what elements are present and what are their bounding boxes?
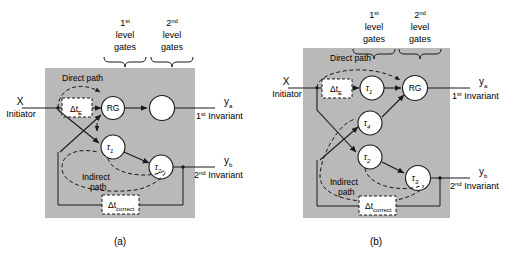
gate1-line3: gates bbox=[114, 42, 137, 52]
b-yb-invariant: Invariant bbox=[464, 181, 499, 191]
panel-a-caption: (a) bbox=[114, 236, 126, 247]
b-ya-invariant: Invariant bbox=[464, 91, 499, 101]
gate2-brace bbox=[151, 57, 193, 67]
gate2-line2: level bbox=[163, 30, 182, 40]
panel-a-input-junction bbox=[56, 106, 59, 109]
panel-a: 1st level gates 2nd level gates Direct p… bbox=[6, 18, 243, 247]
panel-b-node-tau-4: τ4 bbox=[358, 111, 382, 135]
panel-b-delta-t-e-block: ΔtE bbox=[322, 79, 352, 98]
b-gate1-sup: st bbox=[374, 10, 379, 16]
panel-b: 1st level gates 2nd level gates Direct p… bbox=[272, 10, 499, 247]
b-gate2-line3: gates bbox=[409, 34, 432, 44]
gate1-line2: level bbox=[116, 30, 135, 40]
panel-b-delta-t-correct-block: Δtcorrect bbox=[359, 196, 396, 215]
panel-b-tau1-sub: 1 bbox=[369, 89, 372, 95]
b-dtc-sub: correct bbox=[373, 207, 392, 213]
panel-a-rg-label: RG bbox=[107, 103, 120, 113]
b-dte-sub: E bbox=[338, 90, 342, 96]
b-gate2-line2: level bbox=[411, 22, 430, 32]
panel-b-output-b-label: 2nd Invariant bbox=[450, 181, 499, 191]
panel-a-tau1-sub: 1 bbox=[110, 148, 113, 154]
b-gate1-line2: level bbox=[365, 22, 384, 32]
b-yb-sub: b bbox=[484, 173, 488, 179]
panel-b-indirect-label-2: path bbox=[338, 187, 355, 197]
ya-invariant: Invariant bbox=[208, 111, 243, 121]
panel-a-indirect-label-2: path bbox=[90, 182, 107, 192]
svg-text:2nd: 2nd bbox=[166, 18, 178, 28]
panel-a-node-empty bbox=[150, 96, 175, 121]
svg-text:1st: 1st bbox=[369, 10, 379, 20]
panel-b-node-tau-1: τ1 bbox=[360, 76, 384, 100]
panel-a-gate-group-2: 2nd level gates bbox=[151, 18, 193, 67]
gate1-brace bbox=[104, 57, 146, 67]
gate2-line3: gates bbox=[161, 42, 184, 52]
dte-sub: E bbox=[78, 110, 82, 116]
panel-b-node-rg: RG bbox=[403, 76, 428, 101]
svg-text:2nd: 2nd bbox=[414, 10, 426, 20]
panel-b-tau2-sub: 2 bbox=[366, 158, 371, 164]
panel-b-output-a-label: 1st Invariant bbox=[452, 91, 499, 101]
panel-b-input-symbol: X bbox=[283, 76, 290, 87]
b-ya-sub: a bbox=[484, 83, 488, 89]
ya-sub: a bbox=[229, 103, 233, 109]
panel-b-rg-label: RG bbox=[409, 83, 422, 93]
panel-b-input-junction bbox=[315, 86, 318, 89]
panel-a-gate-group-1: 1st level gates bbox=[104, 18, 146, 67]
panel-a-direct-path-label: Direct path bbox=[62, 73, 103, 83]
panel-a-node-tau-1: τ1 bbox=[101, 135, 125, 159]
yb-invariant: Invariant bbox=[208, 170, 243, 180]
panel-a-delta-t-e-block: ΔtE bbox=[62, 98, 92, 117]
b-gate1-line3: gates bbox=[363, 34, 386, 44]
panel-a-node-tau-2: τ2 bbox=[149, 155, 173, 179]
panel-b-indirect-label-1: Indirect bbox=[330, 177, 359, 187]
panel-b-caption: (b) bbox=[370, 236, 382, 247]
panel-b-node-tau-2: τ2 bbox=[358, 145, 382, 169]
gate2-sup: nd bbox=[171, 18, 178, 24]
panel-a-node-rg: RG bbox=[102, 97, 125, 120]
panel-b-direct-path-label: Direct path bbox=[330, 53, 371, 63]
panel-b-output-a-symbol: ya bbox=[479, 76, 488, 89]
yb-sup: nd bbox=[199, 170, 206, 176]
panel-a-output-b-label: 2nd Invariant bbox=[194, 170, 243, 180]
panel-a-input-label: Initiator bbox=[6, 109, 36, 119]
diagram-canvas: 1st level gates 2nd level gates Direct p… bbox=[0, 0, 516, 260]
panel-a-indirect-label-1: Indirect bbox=[82, 172, 111, 182]
figure-root: 1st level gates 2nd level gates Direct p… bbox=[0, 0, 516, 260]
panel-b-input-label: Initiator bbox=[272, 89, 302, 99]
yb-sub: b bbox=[229, 162, 233, 168]
panel-a-delta-t-correct-block: Δtcorrect bbox=[102, 195, 139, 214]
panel-a-output-b-symbol: yb bbox=[224, 155, 233, 168]
svg-text:1st: 1st bbox=[120, 18, 130, 28]
b-yb-sup: nd bbox=[455, 181, 462, 187]
panel-a-output-a-label: 1st Invariant bbox=[196, 111, 243, 121]
panel-a-input-symbol: X bbox=[17, 96, 24, 107]
panel-b-output-b-symbol: yb bbox=[479, 166, 488, 179]
panel-a-output-a-symbol: ya bbox=[224, 96, 233, 109]
dtc-sub: correct bbox=[116, 206, 135, 212]
b-gate2-sup: nd bbox=[419, 10, 426, 16]
gate1-sup: st bbox=[125, 18, 130, 24]
